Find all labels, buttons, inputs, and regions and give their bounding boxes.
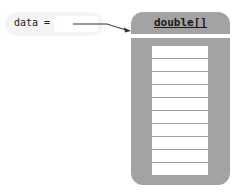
array-cell — [152, 98, 208, 111]
array-cell — [152, 137, 208, 150]
array-cell — [152, 72, 208, 85]
array-body — [131, 38, 230, 185]
array-cell — [152, 59, 208, 72]
array-cell — [152, 150, 208, 163]
array-cell — [152, 85, 208, 98]
array-object: double[] — [131, 12, 230, 185]
array-type-label: double[] — [131, 16, 230, 29]
array-cell — [152, 46, 208, 59]
array-cell — [152, 124, 208, 137]
array-cells — [152, 46, 208, 175]
array-cell — [152, 163, 208, 175]
array-cell — [152, 111, 208, 124]
array-header: double[] — [131, 12, 230, 34]
